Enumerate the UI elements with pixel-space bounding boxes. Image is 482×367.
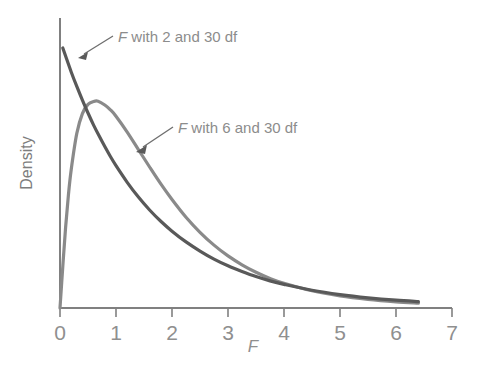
f-distribution-chart: 01234567 F with 2 and 30 df F with 6 and…	[0, 0, 482, 367]
x-tick-label-4: 4	[278, 321, 290, 344]
x-tick-label-1: 1	[110, 321, 122, 344]
x-tick-label-7: 7	[446, 321, 458, 344]
label-f-2-30: F with 2 and 30 df	[118, 28, 238, 45]
x-tick-label-0: 0	[54, 321, 66, 344]
x-tick-label-2: 2	[166, 321, 178, 344]
x-tick-label-3: 3	[222, 321, 234, 344]
x-tick-label-6: 6	[390, 321, 402, 344]
label-f-6-30: F with 6 and 30 df	[178, 119, 298, 136]
y-axis-title: Density	[18, 136, 35, 189]
x-axis-title: F	[248, 337, 260, 356]
x-tick-label-5: 5	[334, 321, 346, 344]
chart-background	[0, 0, 482, 367]
